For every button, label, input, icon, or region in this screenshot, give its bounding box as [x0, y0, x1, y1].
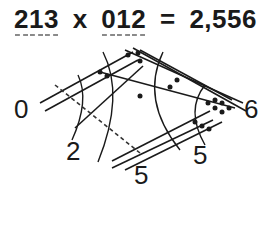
group-label-left: 0	[14, 96, 28, 122]
group-label-bottom-right: 5	[193, 142, 207, 168]
group-label-bottom: 5	[134, 162, 148, 188]
group-label-right: 6	[244, 96, 258, 122]
grouping-arcs	[72, 52, 205, 162]
group-label-bottom-left: 2	[66, 138, 80, 164]
